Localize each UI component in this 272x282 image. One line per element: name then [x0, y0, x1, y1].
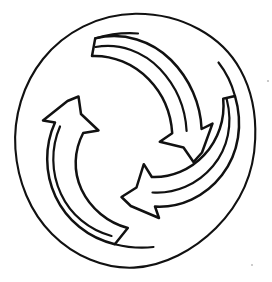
cyclic-arrows-illustration: Three curved arrows in a circular cyclic…: [0, 0, 272, 282]
scan-speck: [267, 80, 269, 82]
arrow-left: [43, 97, 128, 245]
tail-stroke-bottom: [115, 244, 154, 247]
tail-stroke-right: [219, 63, 236, 97]
arrow-upper-right: [92, 36, 213, 162]
figure-container: Three curved arrows in a circular cyclic…: [0, 0, 272, 282]
arrow-upper-right-body: [92, 36, 213, 162]
arrow-left-body: [43, 97, 128, 245]
scan-speck: [251, 264, 253, 266]
